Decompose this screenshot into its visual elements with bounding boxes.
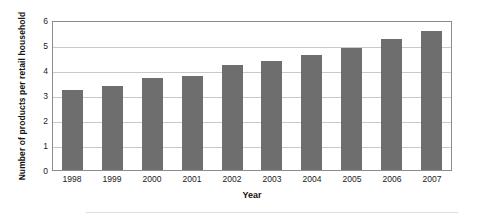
bar: [142, 78, 163, 171]
bar: [222, 65, 243, 170]
x-axis-tick-label: 2004: [292, 174, 332, 184]
y-axis-tick-label: 5: [34, 41, 48, 51]
bar: [102, 86, 123, 170]
y-axis-tick-label: 0: [34, 166, 48, 176]
bar: [261, 61, 282, 170]
y-axis-tick-label: 3: [34, 91, 48, 101]
x-axis-tick-label: 2006: [372, 174, 412, 184]
bar: [182, 76, 203, 171]
plot-area: [52, 21, 452, 171]
x-axis-tick-label: 2001: [172, 174, 212, 184]
y-axis-tick-label: 1: [34, 141, 48, 151]
y-axis-tick-label: 2: [34, 116, 48, 126]
y-axis-tick-label: 4: [34, 66, 48, 76]
y-axis-tick-labels: 0123456: [18, 0, 48, 223]
x-axis-tick-label: 2007: [412, 174, 452, 184]
bar: [301, 55, 322, 170]
bar: [62, 90, 83, 170]
x-axis-tick-label: 1998: [52, 174, 92, 184]
bar: [381, 39, 402, 170]
x-axis-tick-label: 1999: [92, 174, 132, 184]
footer-divider: [86, 212, 458, 213]
bar-series: [53, 22, 451, 170]
x-axis-tick-label: 2002: [212, 174, 252, 184]
x-axis-tick-label: 2000: [132, 174, 172, 184]
y-axis-tick-label: 6: [34, 16, 48, 26]
x-axis-title: Year: [52, 190, 452, 200]
bar-chart-figure: Number of products per retail household …: [0, 0, 484, 223]
x-axis-tick-label: 2005: [332, 174, 372, 184]
x-axis-tick-label: 2003: [252, 174, 292, 184]
x-axis-tick-labels: 1998199920002001200220032004200520062007: [52, 174, 452, 188]
bar: [341, 48, 362, 171]
bar: [421, 31, 442, 170]
